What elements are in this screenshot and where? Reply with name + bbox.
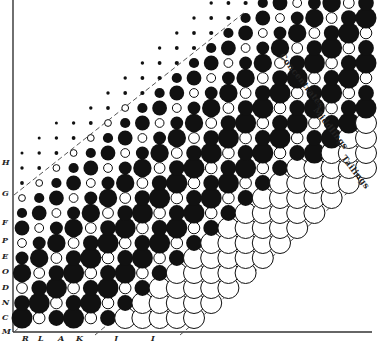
solid-particle — [141, 61, 144, 64]
open-particle — [154, 163, 165, 174]
solid-particle — [341, 55, 357, 71]
solid-particle — [274, 27, 287, 40]
open-particle — [102, 297, 114, 309]
solid-particle — [50, 222, 63, 235]
open-particle — [105, 120, 112, 127]
solid-particle — [66, 250, 82, 266]
solid-particle — [169, 160, 185, 176]
open-particle — [188, 222, 200, 234]
solid-particle — [307, 40, 323, 56]
solid-particle — [135, 116, 150, 131]
open-particle — [17, 283, 28, 294]
solid-particle — [255, 175, 271, 191]
y-label-H: H — [1, 157, 10, 167]
solid-particle — [49, 191, 64, 206]
solid-particle — [55, 151, 59, 155]
open-particle — [154, 252, 166, 264]
solid-particle — [175, 46, 179, 50]
solid-particle — [175, 61, 179, 65]
solid-particle — [83, 280, 99, 296]
solid-particle — [219, 84, 237, 102]
solid-particle — [152, 101, 167, 116]
solid-particle — [158, 61, 162, 65]
open-particle — [122, 105, 129, 112]
open-particle — [137, 222, 149, 234]
open-particle — [18, 239, 27, 248]
solid-particle — [16, 252, 29, 265]
solid-particle — [227, 1, 231, 5]
x-label-I: I — [150, 333, 155, 341]
solid-particle — [272, 160, 288, 176]
solid-particle — [188, 102, 201, 115]
open-particle — [154, 207, 166, 219]
solid-particle — [106, 106, 110, 110]
open-particle — [103, 208, 114, 219]
solid-particle — [49, 265, 65, 281]
solid-particle — [272, 115, 288, 131]
solid-particle — [203, 175, 219, 191]
solid-particle — [255, 130, 271, 146]
solid-particle — [206, 43, 216, 53]
solid-particle — [341, 100, 357, 116]
solid-particle — [20, 166, 23, 169]
open-particle — [276, 14, 285, 23]
solid-particle — [72, 136, 76, 140]
open-particle — [69, 194, 78, 203]
open-particle — [240, 88, 251, 99]
y-label-C: C — [2, 312, 9, 322]
solid-particle — [117, 250, 133, 266]
open-particle — [121, 149, 130, 158]
solid-particle — [289, 145, 305, 161]
solid-particle — [221, 160, 237, 176]
solid-particle — [169, 250, 185, 266]
solid-particle — [32, 206, 47, 221]
open-particle — [292, 43, 303, 54]
solid-particle — [66, 295, 82, 311]
solid-particle — [222, 72, 235, 85]
open-particle — [85, 312, 97, 324]
open-particle — [326, 57, 338, 69]
open-particle — [360, 72, 372, 84]
solid-particle — [341, 10, 357, 26]
solid-particle — [103, 133, 113, 143]
solid-particle — [117, 295, 133, 311]
solid-particle — [175, 31, 178, 34]
y-label-F: F — [1, 217, 9, 227]
open-particle — [104, 164, 113, 173]
x-label-L: L — [37, 333, 44, 341]
solid-particle — [89, 121, 93, 125]
solid-particle — [155, 88, 165, 98]
solid-particle — [67, 207, 80, 220]
solid-particle — [152, 220, 168, 236]
open-particle — [241, 44, 250, 53]
solid-particle — [83, 161, 98, 176]
solid-particle — [118, 131, 133, 146]
solid-particle — [291, 12, 304, 25]
open-particle — [257, 73, 268, 84]
solid-particle — [186, 145, 202, 161]
solid-particle — [305, 9, 323, 27]
open-particle — [240, 177, 252, 189]
solid-particle — [55, 136, 58, 139]
open-particle — [119, 237, 131, 249]
solid-particle — [170, 117, 183, 130]
solid-particle — [273, 0, 288, 10]
solid-particle — [226, 16, 230, 20]
solid-particle — [189, 58, 199, 68]
open-particle — [119, 282, 131, 294]
open-particle — [360, 27, 372, 39]
solid-particle — [37, 166, 41, 170]
solid-particle — [192, 31, 196, 35]
open-particle — [291, 132, 303, 144]
solid-particle — [64, 219, 82, 237]
solid-particle — [152, 175, 168, 191]
solid-particle — [100, 310, 116, 326]
solid-particle — [169, 205, 185, 221]
solid-particle — [120, 118, 130, 128]
solid-particle — [203, 220, 219, 236]
open-particle — [291, 87, 303, 99]
open-particle — [36, 180, 43, 187]
open-particle — [343, 42, 355, 54]
open-particle — [171, 192, 183, 204]
open-particle — [258, 29, 267, 38]
